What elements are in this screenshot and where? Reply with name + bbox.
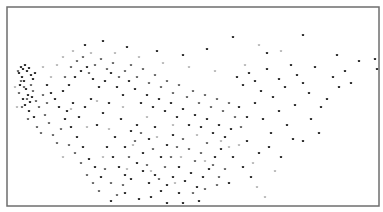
- data-point: [182, 54, 184, 56]
- data-point: [152, 148, 154, 150]
- data-point: [102, 112, 104, 114]
- data-point: [286, 124, 288, 126]
- data-point: [22, 68, 24, 70]
- data-point: [108, 128, 110, 130]
- data-point: [178, 166, 180, 168]
- data-point: [106, 68, 108, 70]
- data-point: [186, 96, 188, 98]
- data-point: [102, 40, 104, 42]
- data-point: [202, 176, 204, 178]
- data-point: [318, 132, 320, 134]
- data-point: [24, 64, 26, 66]
- data-point: [182, 108, 184, 110]
- data-point: [42, 66, 44, 68]
- data-point: [214, 70, 216, 72]
- data-point: [156, 136, 158, 138]
- data-point: [14, 86, 16, 88]
- data-point: [160, 190, 162, 192]
- data-point: [238, 106, 240, 108]
- data-point: [26, 98, 28, 100]
- data-point: [33, 116, 35, 118]
- data-point: [164, 110, 166, 112]
- data-point: [124, 70, 126, 72]
- data-point: [146, 116, 148, 118]
- data-point: [200, 126, 202, 128]
- data-point: [138, 198, 140, 200]
- data-point: [232, 36, 234, 38]
- data-point: [122, 106, 124, 108]
- data-point: [190, 172, 192, 174]
- data-point: [272, 96, 274, 98]
- data-point: [110, 182, 112, 184]
- data-point: [46, 102, 48, 104]
- data-point: [50, 76, 52, 78]
- data-point: [28, 110, 30, 112]
- data-point: [21, 76, 23, 78]
- data-point: [150, 170, 152, 172]
- data-point: [96, 100, 98, 102]
- data-point: [100, 58, 102, 60]
- data-point: [62, 56, 64, 58]
- data-point: [92, 78, 94, 80]
- data-point: [114, 136, 116, 138]
- data-point: [206, 48, 208, 50]
- data-point: [52, 134, 54, 136]
- data-point: [222, 110, 224, 112]
- data-point: [82, 56, 84, 58]
- data-point: [308, 92, 310, 94]
- data-point: [188, 66, 190, 68]
- data-point: [216, 98, 218, 100]
- data-point: [60, 128, 62, 130]
- data-point: [56, 64, 58, 66]
- data-point: [88, 72, 90, 74]
- data-point: [344, 70, 346, 72]
- data-point: [86, 174, 88, 176]
- data-point: [27, 118, 29, 120]
- data-point: [26, 70, 28, 72]
- data-point: [198, 102, 200, 104]
- data-point: [42, 94, 44, 96]
- data-point: [27, 94, 29, 96]
- data-point: [62, 90, 64, 92]
- data-point: [182, 138, 184, 140]
- data-point: [212, 164, 214, 166]
- data-point: [156, 50, 158, 52]
- data-point: [350, 82, 352, 84]
- data-point: [224, 136, 226, 138]
- data-point: [72, 50, 74, 52]
- data-point: [76, 136, 78, 138]
- data-point: [106, 146, 108, 148]
- data-point: [234, 116, 236, 118]
- scatter-chart: [0, 0, 383, 212]
- data-point: [220, 140, 222, 142]
- data-point: [140, 132, 142, 134]
- data-point: [154, 126, 156, 128]
- data-point: [154, 174, 156, 176]
- data-point: [104, 80, 106, 82]
- data-point: [90, 98, 92, 100]
- data-point: [278, 78, 280, 80]
- data-point: [158, 178, 160, 180]
- data-point: [56, 142, 58, 144]
- data-point: [218, 124, 220, 126]
- data-point: [100, 176, 102, 178]
- data-point: [108, 102, 110, 104]
- data-point: [138, 56, 140, 58]
- data-point: [148, 138, 150, 140]
- data-point: [254, 80, 256, 82]
- data-point: [314, 66, 316, 68]
- data-point: [46, 84, 48, 86]
- data-point: [124, 192, 126, 194]
- data-point: [94, 64, 96, 66]
- data-point: [268, 146, 270, 148]
- data-point: [176, 146, 178, 148]
- data-point: [240, 126, 242, 128]
- data-point: [76, 60, 78, 62]
- data-point: [20, 80, 22, 82]
- data-point: [130, 178, 132, 180]
- data-point: [20, 66, 22, 68]
- data-point: [280, 156, 282, 158]
- data-point: [206, 118, 208, 120]
- data-point: [78, 116, 80, 118]
- data-point: [228, 182, 230, 184]
